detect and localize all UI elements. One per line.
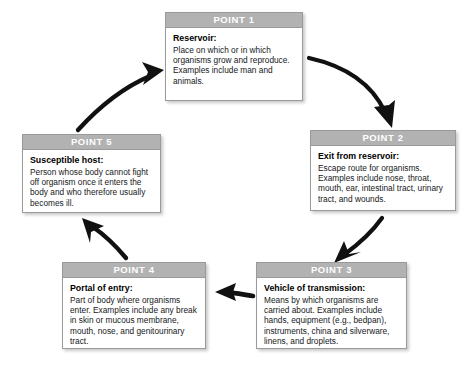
point-2-title: Exit from reservoir: xyxy=(318,151,449,162)
arrow-point1-to-point2-icon xyxy=(309,58,395,128)
point-5-title: Susceptible host: xyxy=(30,155,154,166)
point-2-text: Escape route for organisms. Examples inc… xyxy=(318,163,449,205)
point-4-box[interactable]: POINT 4 Portal of entry: Part of body wh… xyxy=(62,262,206,349)
point-2-header: POINT 2 xyxy=(311,131,455,146)
point-2-body: Exit from reservoir: Escape route for or… xyxy=(311,146,455,209)
point-1-text: Place on which or in which organisms gro… xyxy=(173,45,296,87)
point-5-text: Person whose body cannot fight off organ… xyxy=(30,167,154,209)
point-1-body: Reservoir: Place on which or in which or… xyxy=(166,28,302,91)
point-5-box[interactable]: POINT 5 Susceptible host: Person whose b… xyxy=(22,134,161,213)
arrow-point2-to-point3-icon xyxy=(334,218,382,263)
point-4-text: Part of body where organisms enter. Exam… xyxy=(70,295,199,347)
point-1-box[interactable]: POINT 1 Reservoir: Place on which or in … xyxy=(165,12,303,101)
point-3-title: Vehicle of transmission: xyxy=(264,283,400,294)
point-4-title: Portal of entry: xyxy=(70,283,199,294)
point-1-header: POINT 1 xyxy=(166,13,302,28)
point-3-box[interactable]: POINT 3 Vehicle of transmission: Means b… xyxy=(256,262,407,349)
point-3-text: Means by which organisms are carried abo… xyxy=(264,295,400,347)
chain-of-infection-diagram: POINT 1 Reservoir: Place on which or in … xyxy=(0,0,466,365)
arrow-point3-to-point4-icon xyxy=(215,283,253,301)
point-3-header: POINT 3 xyxy=(257,263,406,278)
point-3-body: Vehicle of transmission: Means by which … xyxy=(257,278,406,352)
point-2-box[interactable]: POINT 2 Exit from reservoir: Escape rout… xyxy=(310,130,456,211)
point-5-body: Susceptible host: Person whose body cann… xyxy=(23,150,160,213)
arrow-point5-to-point1-icon xyxy=(78,62,164,130)
point-4-body: Portal of entry: Part of body where orga… xyxy=(63,278,205,352)
point-4-header: POINT 4 xyxy=(63,263,205,278)
point-1-title: Reservoir: xyxy=(173,33,296,44)
point-5-header: POINT 5 xyxy=(23,135,160,150)
arrow-point4-to-point5-icon xyxy=(82,218,126,258)
